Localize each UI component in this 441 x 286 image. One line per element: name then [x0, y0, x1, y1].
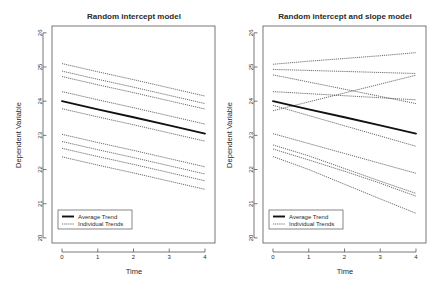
chart-svg-right: Random intercept and slope model Time De…	[220, 0, 440, 286]
x-tick-label: 2	[343, 254, 347, 260]
legend-label: Individual Trends	[78, 221, 123, 227]
y-tick-label: 26	[248, 29, 254, 36]
individual-trend-line	[62, 142, 205, 174]
individual-trend-line	[62, 71, 205, 103]
individual-trend-line	[273, 105, 416, 146]
individual-trend-line	[273, 75, 416, 104]
x-tick-label: 4	[414, 254, 418, 260]
x-axis-label-right: Time	[337, 267, 353, 276]
x-axis-label-left: Time	[126, 267, 142, 276]
legend-label: Average Trend	[78, 214, 117, 220]
y-tick-label: 20	[37, 234, 43, 241]
x-tick-label: 3	[379, 254, 383, 260]
y-axis-label-left: Dependent Variable	[14, 102, 23, 168]
x-tick-label: 0	[60, 254, 64, 260]
individual-trend-line	[273, 149, 416, 196]
y-tick-label: 22	[37, 166, 43, 173]
chart-panel-left: Random intercept model Time Dependent Va…	[0, 0, 220, 286]
plot-area-left: 2021222324252601234Average TrendIndividu…	[37, 26, 215, 260]
x-tick-label: 1	[307, 254, 311, 260]
y-tick-label: 23	[37, 131, 43, 138]
legend-label: Individual Trends	[289, 221, 334, 227]
individual-trend-line	[62, 64, 205, 96]
x-tick-label: 4	[203, 254, 207, 260]
x-tick-label: 2	[132, 254, 136, 260]
y-axis-label-right: Dependent Variable	[225, 102, 234, 168]
y-tick-label: 25	[37, 63, 43, 70]
average-trend-line	[273, 101, 416, 133]
individual-trend-line	[273, 53, 416, 65]
individual-trend-line	[273, 157, 416, 214]
individual-trend-line	[62, 148, 205, 180]
x-tick-label: 3	[168, 254, 172, 260]
panel-title-left: Random intercept model	[87, 12, 181, 21]
individual-trend-line	[273, 69, 416, 73]
y-tick-label: 21	[37, 200, 43, 207]
individual-trend-line	[273, 134, 416, 174]
figure-canvas: Random intercept model Time Dependent Va…	[0, 0, 441, 286]
individual-trend-line	[273, 145, 416, 194]
y-tick-label: 20	[248, 234, 254, 241]
individual-trend-line	[62, 109, 205, 141]
x-tick-label: 1	[96, 254, 100, 260]
average-trend-line	[62, 101, 205, 133]
y-tick-label: 24	[37, 97, 43, 104]
chart-svg-left: Random intercept model Time Dependent Va…	[0, 0, 220, 286]
x-tick-label: 0	[271, 254, 275, 260]
panel-title-right: Random intercept and slope model	[278, 12, 411, 21]
y-tick-label: 23	[248, 131, 254, 138]
y-tick-label: 21	[248, 200, 254, 207]
plot-area-right: 2021222324252601234Average TrendIndividu…	[248, 26, 426, 260]
individual-trend-line	[62, 77, 205, 109]
y-tick-label: 25	[248, 63, 254, 70]
individual-trend-line	[62, 92, 205, 124]
legend-label: Average Trend	[289, 214, 328, 220]
y-tick-label: 26	[37, 29, 43, 36]
y-tick-label: 24	[248, 97, 254, 104]
chart-panel-right: Random intercept and slope model Time De…	[220, 0, 440, 286]
y-tick-label: 22	[248, 166, 254, 173]
